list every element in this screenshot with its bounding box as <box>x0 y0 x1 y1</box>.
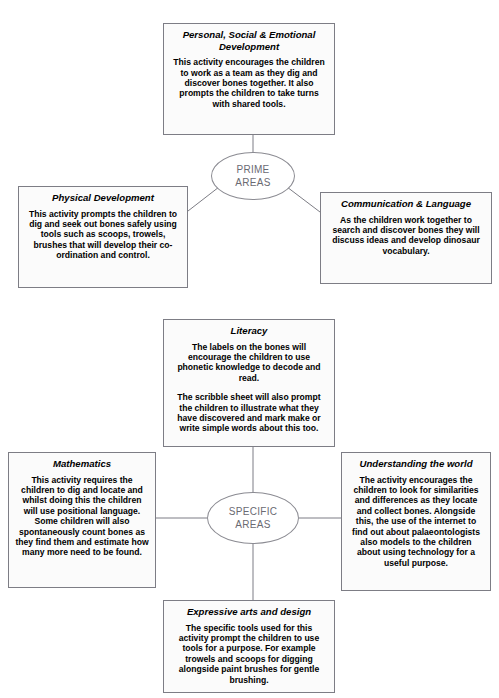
node-title: Communication & Language <box>327 198 485 210</box>
node-communication-and-language: Communication & Language As the children… <box>320 192 492 284</box>
node-expressive-arts-and-design: Expressive arts and design The specific … <box>163 600 335 693</box>
node-body: This activity requires the children to d… <box>15 475 149 558</box>
node-mathematics: Mathematics This activity requires the c… <box>8 452 156 588</box>
node-body: As the children work together to search … <box>327 215 485 257</box>
hub-label-line-1: SPECIFIC <box>229 505 278 518</box>
node-title: Personal, Social & Emotional Development <box>170 29 328 52</box>
connector-prime-to-physical <box>188 187 219 211</box>
node-title: Understanding the world <box>348 458 484 470</box>
node-title: Physical Development <box>25 192 181 204</box>
node-body: This activity prompts the children to di… <box>25 209 181 261</box>
node-body: The activity encourages the children to … <box>348 475 484 569</box>
node-personal-social-emotional-development: Personal, Social & Emotional Development… <box>163 23 335 135</box>
node-body: The labels on the bones will encourage t… <box>170 342 328 384</box>
connector-prime-to-communication <box>287 187 320 212</box>
node-physical-development: Physical Development This activity promp… <box>18 186 188 288</box>
hub-specific-areas: SPECIFIC AREAS <box>207 492 299 544</box>
node-title: Mathematics <box>15 458 149 470</box>
hub-label-line-2: AREAS <box>235 518 270 531</box>
hub-label-line-1: PRIME <box>236 163 269 176</box>
hub-prime-areas: PRIME AREAS <box>211 152 295 200</box>
node-title: Literacy <box>170 325 328 337</box>
node-body: The specific tools used for this activit… <box>170 623 328 685</box>
node-body: This activity encourages the children to… <box>170 57 328 109</box>
hub-label-line-2: AREAS <box>235 176 270 189</box>
node-understanding-the-world: Understanding the world The activity enc… <box>341 452 491 591</box>
node-body: The scribble sheet will also prompt the … <box>170 392 328 434</box>
node-title: Expressive arts and design <box>170 606 328 618</box>
node-literacy: Literacy The labels on the bones will en… <box>163 319 335 447</box>
